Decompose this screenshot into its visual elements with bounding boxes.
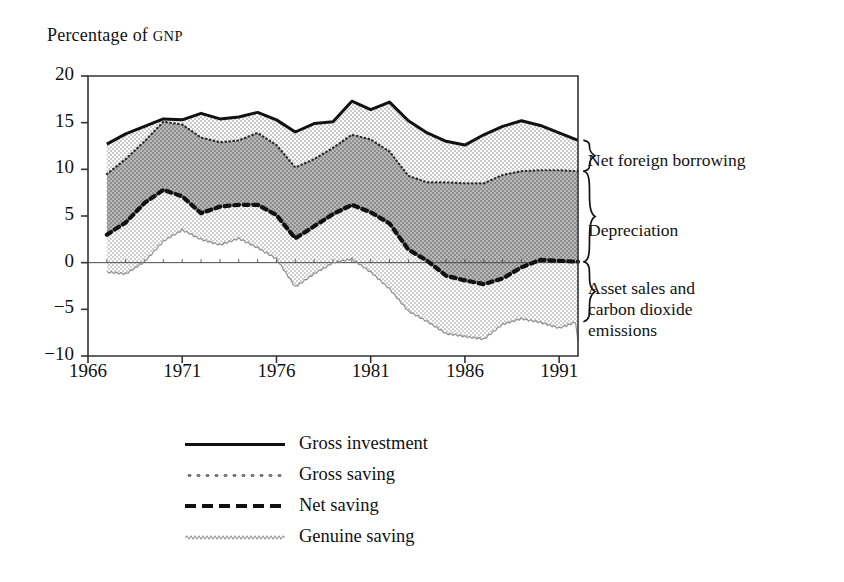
y-tick-label: 5 [30,203,74,225]
x-tick-label: 1976 [241,360,311,382]
annotation-label: Net foreign borrowing [588,150,745,170]
legend-label: Gross saving [299,464,395,485]
legend-key-solid-line [185,437,285,451]
x-tick-label: 1986 [430,360,500,382]
legend-label: Net saving [299,495,379,516]
x-tick-label: 1981 [336,360,406,382]
annotation-label-line2: carbon dioxide [588,299,695,320]
legend-label: Genuine saving [299,526,415,547]
legend-label: Gross investment [299,433,428,454]
y-tick-label: 15 [30,110,74,132]
chart-figure: Percentage of GNP −10−50 [0,0,844,582]
annotation-depreciation: Depreciation [588,220,678,241]
annotation-net-foreign-borrowing: Net foreign borrowing [588,150,745,171]
annotation-label-line1: Asset sales and [588,278,695,299]
brace-depreciation [584,171,595,262]
x-tick-label: 1966 [53,360,123,382]
legend-item-net-saving: Net saving [185,490,585,521]
y-tick-label: 10 [30,156,74,178]
legend-key-dotted-line [185,468,285,482]
legend-key-wavy-line [185,530,285,544]
legend-item-genuine-saving: Genuine saving [185,521,585,552]
y-tick-label: 20 [30,63,74,85]
y-tick-label: 0 [30,250,74,272]
chart-bands [107,101,578,339]
legend-item-gross-saving: Gross saving [185,459,585,490]
x-tick-label: 1971 [147,360,217,382]
chart-legend: Gross investment Gross saving Net saving… [185,428,585,552]
annotation-label: Depreciation [588,220,678,240]
x-tick-label: 1991 [524,360,594,382]
legend-item-gross-investment: Gross investment [185,428,585,459]
legend-key-dashed-line [185,499,285,513]
wavy-line-icon [185,535,285,540]
y-tick-label: −5 [30,296,74,318]
annotation-label-line3: emissions [588,320,695,341]
annotation-asset-sales: Asset sales and carbon dioxide emissions [588,278,695,341]
